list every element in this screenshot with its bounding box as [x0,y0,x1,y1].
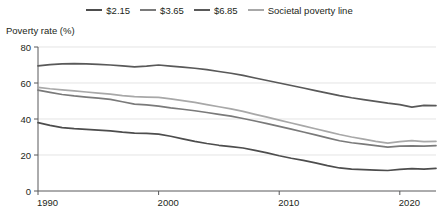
y-tick-label-0: 0 [26,186,31,197]
y-tick-label-20: 20 [20,150,31,161]
legend-item-1[interactable]: $3.65 [140,5,184,16]
plot-area: 020406080 1990200020102020 [0,36,439,224]
legend-swatch-1 [140,9,156,11]
y-tick-marks [34,47,38,191]
legend-item-3[interactable]: Societal poverty line [248,5,353,16]
series-line-3 [38,87,436,143]
x-tick-label-1990: 1990 [37,197,58,208]
legend-swatch-0 [86,9,102,11]
legend-label-0: $2.15 [106,5,130,16]
legend-label-2: $6.85 [214,5,238,16]
x-tick-marks [38,191,400,195]
legend-swatch-2 [194,9,210,11]
series-line-2 [38,64,436,108]
poverty-rate-line-chart: $2.15 $3.65 $6.85 Societal poverty line … [0,0,439,224]
x-tick-label-2010: 2010 [278,197,299,208]
x-tick-label-2000: 2000 [158,197,179,208]
plot-svg: 020406080 1990200020102020 [0,36,439,224]
legend-item-2[interactable]: $6.85 [194,5,238,16]
legend-swatch-3 [248,9,264,11]
x-tick-labels: 1990200020102020 [37,197,420,208]
x-tick-label-2020: 2020 [399,197,420,208]
y-tick-label-40: 40 [20,114,31,125]
y-tick-labels: 020406080 [20,42,31,197]
chart-legend: $2.15 $3.65 $6.85 Societal poverty line [0,2,439,18]
series-line-1 [38,90,436,147]
legend-label-3: Societal poverty line [268,5,353,16]
y-tick-label-60: 60 [20,78,31,89]
legend-item-0[interactable]: $2.15 [86,5,130,16]
legend-label-1: $3.65 [160,5,184,16]
y-axis-title: Poverty rate (%) [6,25,75,36]
series-group [38,64,436,171]
y-tick-label-80: 80 [20,42,31,53]
